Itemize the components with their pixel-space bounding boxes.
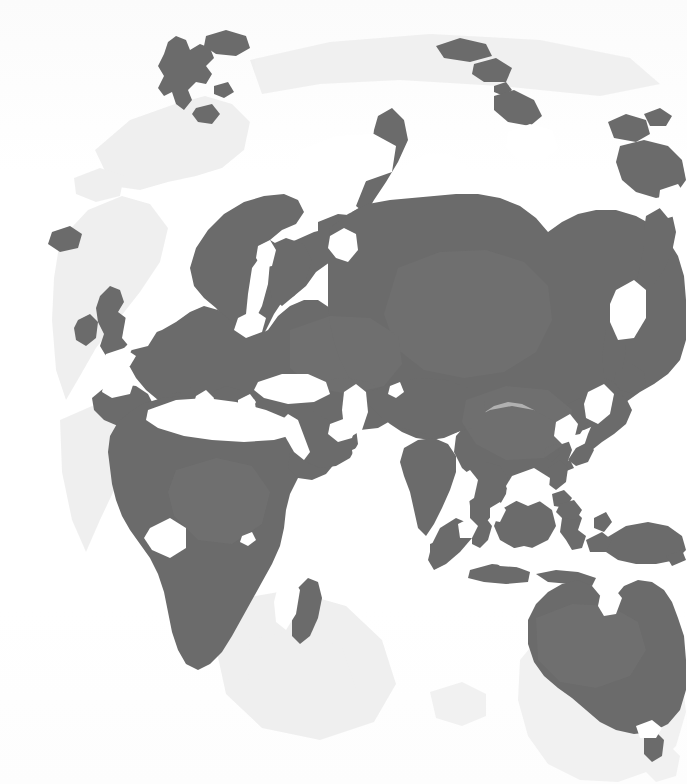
world-map-svg xyxy=(0,0,687,784)
region-severnaya-zemlya xyxy=(494,90,542,126)
world-map-figure xyxy=(0,0,687,784)
region-shikoku-kyushu xyxy=(568,442,594,466)
region-svalbard-tip xyxy=(214,82,234,98)
region-wrangel xyxy=(644,108,672,126)
region-new-siberian xyxy=(608,114,650,142)
region-halmahera xyxy=(594,512,612,532)
region-india xyxy=(400,438,456,536)
